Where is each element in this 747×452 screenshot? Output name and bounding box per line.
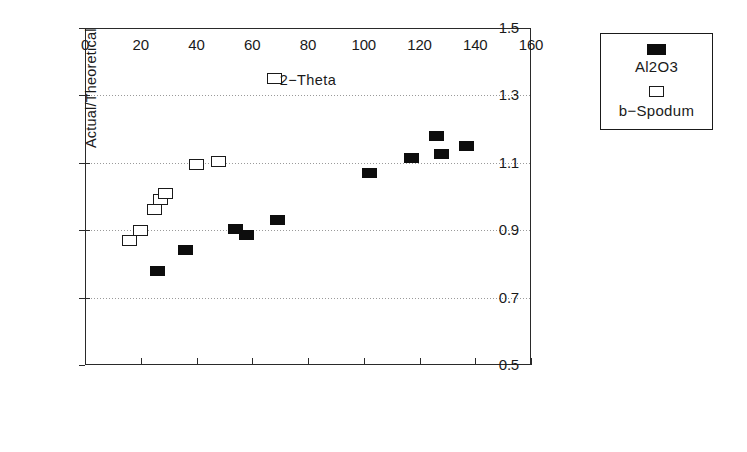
x-tick-label-120: 120: [407, 36, 431, 53]
data-point-bSpodum-0: [122, 235, 137, 246]
data-point-Al2O3-0: [150, 266, 165, 276]
gridline-y-1.1: [85, 163, 531, 164]
y-tick-label-0.7: 0.7: [499, 289, 519, 306]
chart-page: { "chart_data": { "type": "scatter", "ti…: [0, 0, 747, 452]
x-tick-label-40: 40: [188, 36, 204, 53]
data-point-bSpodum-1: [133, 225, 148, 236]
legend-label-spodum: b−Spodum: [619, 102, 694, 119]
data-point-Al2O3-5: [362, 168, 377, 178]
x-tick-label-60: 60: [244, 36, 260, 53]
x-tick-label-100: 100: [352, 36, 376, 53]
filled-square-icon: [647, 44, 666, 55]
y-tick-0.5: [79, 365, 85, 366]
legend-swatch-al2o3-row: [601, 41, 712, 59]
gridline-y-1.3: [85, 95, 531, 96]
y-tick-0.7: [79, 298, 85, 299]
data-point-Al2O3-3: [239, 230, 254, 240]
x-tick-label-160: 160: [519, 36, 543, 53]
x-tick-40: [197, 358, 198, 365]
data-point-bSpodum-2: [147, 204, 162, 215]
plot-area: 0.50.70.91.11.31.5 020406080100120140160…: [85, 28, 531, 365]
data-point-Al2O3-7: [429, 131, 444, 141]
x-axis-title: 2−Theta: [85, 72, 531, 88]
y-tick-label-1.5: 1.5: [499, 19, 519, 36]
x-tick-label-20: 20: [133, 36, 149, 53]
x-tick-60: [252, 358, 253, 365]
open-square-icon: [649, 86, 664, 97]
y-tick-label-1.3: 1.3: [499, 86, 519, 103]
y-tick-label-0.9: 0.9: [499, 221, 519, 238]
x-tick-120: [420, 358, 421, 365]
y-tick-label-1.1: 1.1: [499, 154, 519, 171]
data-point-Al2O3-6: [404, 153, 419, 163]
y-tick-label-0.5: 0.5: [499, 356, 519, 373]
y-tick-1.1: [79, 163, 85, 164]
y-tick-inner: [85, 163, 90, 164]
data-point-Al2O3-1: [178, 245, 193, 255]
data-point-bSpodum-6: [211, 156, 226, 167]
legend-swatch-spodum-row: [601, 83, 712, 101]
x-tick-label-140: 140: [463, 36, 487, 53]
data-point-Al2O3-8: [434, 149, 449, 159]
legend-label-spodum-row: b−Spodum: [601, 102, 712, 120]
x-tick-160: [531, 358, 532, 365]
x-tick-100: [364, 358, 365, 365]
y-tick-inner: [85, 298, 90, 299]
legend-label-al2o3: Al2O3: [635, 58, 678, 75]
gridline-y-0.7: [85, 298, 531, 299]
x-tick-label-80: 80: [300, 36, 316, 53]
data-point-bSpodum-4: [158, 188, 173, 199]
y-tick-0.9: [79, 230, 85, 231]
x-tick-140: [475, 358, 476, 365]
legend-box: Al2O3 b−Spodum: [600, 33, 713, 130]
x-tick-0: [85, 358, 86, 365]
legend-label-al2o3-row: Al2O3: [601, 58, 712, 76]
data-point-Al2O3-9: [459, 141, 474, 151]
gridline-y-0.9: [85, 230, 531, 231]
y-tick-inner: [85, 230, 90, 231]
x-tick-80: [308, 358, 309, 365]
data-point-bSpodum-5: [189, 159, 204, 170]
axis-frame-top: [85, 28, 531, 29]
data-point-Al2O3-4: [270, 215, 285, 225]
x-tick-20: [141, 358, 142, 365]
